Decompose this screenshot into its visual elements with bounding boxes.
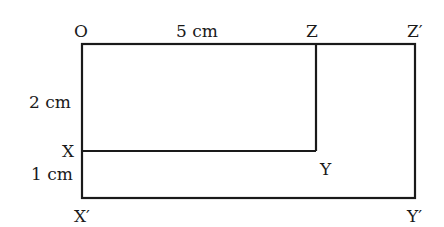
geometry-diagram: O 5 cm Z Z′ 2 cm X 1 cm Y X′ Y′: [0, 0, 444, 227]
label-xx-prime-length: 1 cm: [31, 164, 73, 184]
outer-rectangle: [82, 44, 415, 198]
label-o: O: [74, 21, 88, 41]
label-ox-length: 2 cm: [29, 92, 71, 112]
label-y-prime: Y′: [406, 206, 422, 226]
label-x: X: [62, 141, 75, 161]
label-y: Y: [319, 159, 332, 179]
label-x-prime: X′: [74, 206, 90, 226]
label-z: Z: [306, 21, 318, 41]
label-oz-length: 5 cm: [176, 21, 218, 41]
label-z-prime: Z′: [407, 21, 423, 41]
